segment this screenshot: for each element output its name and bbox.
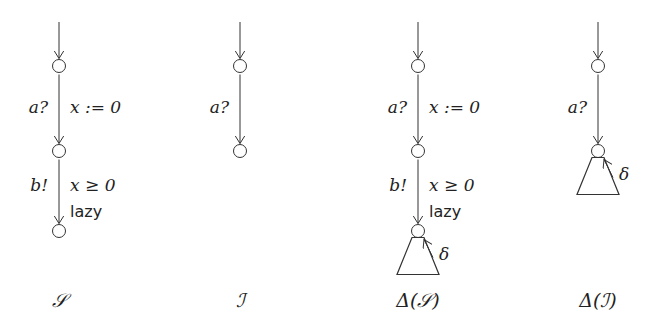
action-label: b! bbox=[30, 175, 48, 195]
automaton-caption: Δ(ℐ) bbox=[578, 289, 617, 311]
state-node bbox=[412, 225, 425, 238]
guard-label: x ≥ 0 bbox=[429, 175, 475, 195]
state-node bbox=[412, 145, 425, 158]
automaton-caption: 𝒮 bbox=[52, 289, 72, 311]
delta-label: δ bbox=[439, 244, 449, 264]
delta-loop-arrow bbox=[424, 240, 433, 258]
state-node bbox=[53, 60, 66, 73]
urgency-label: lazy bbox=[70, 202, 102, 221]
delta-loop-arrow bbox=[604, 160, 613, 178]
delta-label: δ bbox=[619, 164, 629, 184]
state-node bbox=[53, 225, 66, 238]
automaton-caption: Δ(𝒮) bbox=[395, 289, 440, 311]
automata-diagram: a?x := 0b!x ≥ 0lazy𝒮a?ℐa?x := 0b!x ≥ 0la… bbox=[0, 0, 654, 333]
guard-label: x ≥ 0 bbox=[70, 175, 116, 195]
state-node bbox=[592, 145, 605, 158]
state-node bbox=[234, 145, 247, 158]
action-label: a? bbox=[29, 97, 49, 117]
state-node bbox=[234, 60, 247, 73]
state-node bbox=[592, 60, 605, 73]
action-label: b! bbox=[389, 175, 407, 195]
state-node bbox=[53, 145, 66, 158]
urgency-label: lazy bbox=[429, 202, 461, 221]
guard-label: x := 0 bbox=[429, 97, 480, 117]
action-label: a? bbox=[388, 97, 408, 117]
automaton-caption: ℐ bbox=[236, 289, 248, 311]
state-node bbox=[412, 60, 425, 73]
action-label: a? bbox=[568, 97, 588, 117]
action-label: a? bbox=[210, 97, 230, 117]
guard-label: x := 0 bbox=[70, 97, 121, 117]
